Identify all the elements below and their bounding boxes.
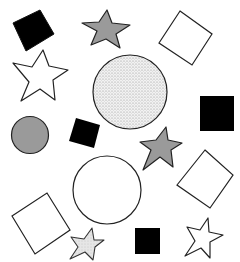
gray-star-middle (140, 127, 182, 170)
dotted-circle-large (93, 55, 167, 129)
black-square-middle (69, 118, 100, 148)
gray-star-top (82, 10, 130, 48)
white-diamond-right (177, 150, 233, 208)
white-diamond-bottom-left (12, 193, 70, 254)
white-circle-middle (73, 156, 141, 224)
black-square-right (200, 96, 234, 131)
white-diamond-top-right (159, 11, 212, 65)
shapes-canvas (0, 0, 240, 262)
black-square-top-left (13, 10, 54, 51)
white-star-left (13, 50, 68, 101)
light-star-bottom (70, 228, 104, 260)
black-square-bottom (135, 228, 160, 254)
white-star-bottom-right (185, 218, 223, 258)
gray-circle-left (12, 117, 49, 154)
